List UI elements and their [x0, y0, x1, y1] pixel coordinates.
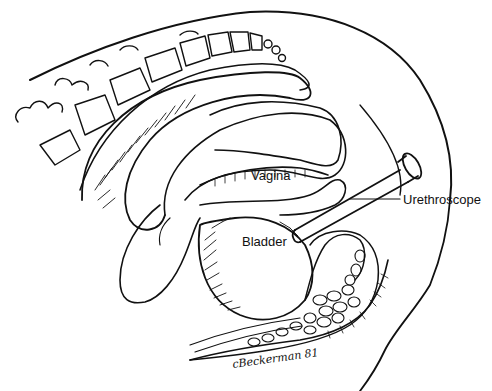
urethra-outline [305, 235, 365, 300]
vagina-outline-bottom [200, 180, 345, 215]
label-urethroscope: Urethroscope [403, 193, 481, 206]
lower-contour-1 [190, 318, 300, 345]
pubic-outline [190, 231, 378, 360]
bladder-hatching [204, 218, 298, 310]
label-bladder: Bladder [242, 235, 287, 248]
colon-hatching [95, 95, 195, 208]
rectum-outer [82, 72, 311, 229]
illustration-canvas: Vagina Bladder Urethroscope cBeckerman 8… [0, 0, 492, 391]
bladder-outline [199, 217, 313, 319]
label-vagina: Vagina [251, 169, 291, 182]
spine-vertebrae [16, 31, 286, 165]
pouch-loop [120, 205, 200, 303]
uterus-outline [210, 102, 341, 166]
